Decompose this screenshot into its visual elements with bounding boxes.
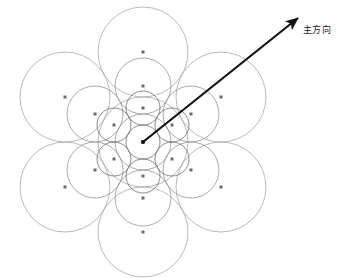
circle-center-dot <box>113 158 116 161</box>
circle-center-dot <box>142 107 145 110</box>
circle-center-dot <box>220 186 223 189</box>
circle-center-dot <box>171 124 174 127</box>
circle-center-dot <box>142 197 145 200</box>
circle-center-dot <box>94 113 97 116</box>
pattern-center-dot <box>141 140 145 144</box>
circle-packing-diagram <box>0 0 342 278</box>
circle-center-dot <box>64 186 67 189</box>
circle-center-dot <box>142 51 145 54</box>
circle-center-dot <box>190 169 193 172</box>
circle-center-dot <box>142 231 145 234</box>
circle-center-dot <box>94 169 97 172</box>
circle-center-dot <box>142 85 145 88</box>
circle-center-dot <box>190 113 193 116</box>
circle-center-dot <box>220 96 223 99</box>
circle-center-dot <box>142 175 145 178</box>
circle-center-dot <box>113 124 116 127</box>
figure-container: 图 5 层次圆形排布 主方向 <box>0 0 342 278</box>
direction-label: 主方向 <box>303 25 331 36</box>
circle-center-dot <box>171 158 174 161</box>
circle-center-dot <box>64 96 67 99</box>
